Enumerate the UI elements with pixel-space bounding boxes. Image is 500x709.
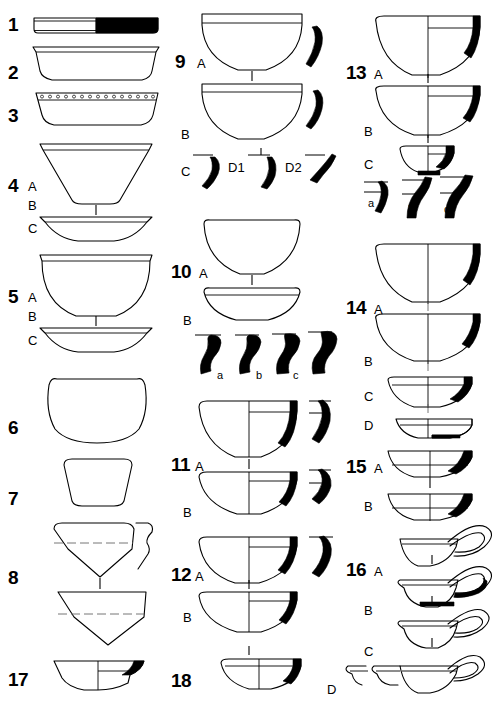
figure-9-variant-D2: D2 [285, 161, 302, 174]
figure-10a-sherd [195, 331, 237, 376]
figure-11B [193, 468, 305, 518]
figure-13c-sherd [440, 172, 484, 222]
figure-9B-rim-sherd [304, 88, 328, 132]
figure-5-variant-B: B [28, 310, 37, 323]
figure-14C [384, 373, 480, 413]
figure-14A [368, 240, 488, 306]
figure-13-joint-tick-1 [426, 74, 430, 83]
figure-4A [38, 140, 154, 208]
figure-16D-fragment-2 [368, 652, 408, 688]
figure-number-4: 4 [8, 176, 18, 195]
figure-14-variant-D: D [364, 419, 373, 432]
figure-5-joint-tick [94, 316, 98, 326]
figure-12B [193, 588, 305, 636]
figure-16-joint-tick-2 [430, 596, 434, 605]
figure-12A [193, 533, 305, 587]
figure-10A [200, 216, 304, 278]
figure-14-variant-C: C [364, 390, 373, 403]
figure-4-joint-tick [94, 205, 98, 215]
column-right: 13 A B C a b c [340, 0, 500, 709]
figure-13A [368, 12, 488, 80]
figure-18-joint-tick [247, 646, 251, 655]
figure-number-17: 17 [8, 670, 28, 689]
figure-15-variant-A: A [374, 462, 383, 475]
figure-13-joint-tick-2 [426, 135, 430, 143]
figure-4C [38, 213, 154, 245]
column-left: 1 2 3 [0, 0, 165, 709]
figure-11-joint-tick [247, 459, 251, 469]
figure-9-joint-tick [250, 71, 254, 81]
figure-15-joint-tick [428, 478, 432, 488]
figure-14B [368, 310, 488, 366]
figure-17 [50, 656, 150, 698]
figure-8-joint-tick [98, 578, 102, 589]
figure-10b-sherd-1 [235, 331, 277, 376]
figure-16-joint-tick-1 [430, 555, 434, 564]
figure-4-variant-A: A [28, 180, 37, 193]
figure-11-variant-B: B [183, 506, 192, 519]
figure-4-variant-B: B [28, 199, 37, 212]
figure-number-5: 5 [8, 287, 18, 306]
figure-number-12: 12 [171, 565, 191, 584]
figure-1 [32, 12, 160, 38]
figure-number-3: 3 [8, 106, 18, 125]
figure-12A-sherd [307, 533, 337, 581]
figure-13a-sherd [364, 178, 400, 218]
figure-10-joint-tick [250, 275, 254, 285]
figure-8-lower [52, 587, 152, 649]
figure-5-variant-C: C [28, 334, 37, 347]
figure-5-variant-A: A [28, 291, 37, 304]
figure-12-variant-B: B [183, 611, 192, 624]
figure-number-8: 8 [8, 568, 18, 587]
figure-5A [38, 251, 154, 321]
figure-15A [384, 445, 480, 483]
figure-number-16: 16 [346, 560, 366, 579]
figure-3 [33, 89, 161, 131]
figure-11A-sherd [307, 397, 337, 447]
figure-number-6: 6 [8, 418, 18, 437]
figure-10B [200, 284, 304, 324]
column-middle: 9 A B C D1 D2 [165, 0, 340, 709]
figure-13b-sherd [402, 174, 442, 222]
figure-9-variant-B: B [181, 128, 190, 141]
figure-9B [200, 80, 304, 144]
figure-18 [215, 655, 311, 695]
figure-15-variant-B: B [364, 500, 373, 513]
figure-number-13: 13 [346, 63, 366, 82]
figure-12-joint-tick [247, 580, 251, 589]
figure-9-variant-D1: D1 [228, 161, 245, 174]
pottery-plate: 1 2 3 [0, 0, 500, 709]
figure-9C-sherd [193, 152, 229, 192]
figure-number-10: 10 [171, 262, 191, 281]
figure-16-variant-D: D [327, 683, 336, 696]
figure-9A-rim-sherd [304, 24, 328, 70]
figure-14-joint-tick-3 [426, 404, 430, 414]
figure-number-2: 2 [8, 63, 18, 82]
figure-13-variant-C: C [364, 158, 373, 171]
figure-16-variant-B: B [364, 604, 373, 617]
figure-9A [200, 10, 304, 74]
figure-9D2-sherd [305, 150, 341, 190]
figure-16-joint-tick-3 [430, 638, 434, 647]
figure-16-variant-A: A [374, 565, 383, 578]
figure-9-variant-C: C [181, 165, 190, 178]
figure-13B [368, 82, 488, 140]
figure-number-18: 18 [171, 671, 191, 690]
figure-16D [396, 648, 500, 700]
figure-4-variant-C: C [28, 222, 37, 235]
figure-2 [30, 43, 162, 85]
figure-number-11: 11 [171, 455, 190, 474]
figure-8-rim-sherd [134, 519, 160, 575]
figure-7 [54, 455, 142, 511]
figure-14D [392, 413, 478, 445]
figure-11A [193, 397, 305, 461]
figure-number-15: 15 [346, 457, 366, 476]
figure-number-7: 7 [8, 489, 18, 508]
figure-number-9: 9 [175, 52, 185, 71]
figure-6 [43, 373, 151, 447]
figure-number-14: 14 [346, 298, 366, 317]
figure-10-variant-B: B [183, 314, 192, 327]
figure-9D1-sherd [248, 148, 284, 192]
figure-5C [38, 324, 154, 356]
figure-number-1: 1 [8, 15, 18, 34]
